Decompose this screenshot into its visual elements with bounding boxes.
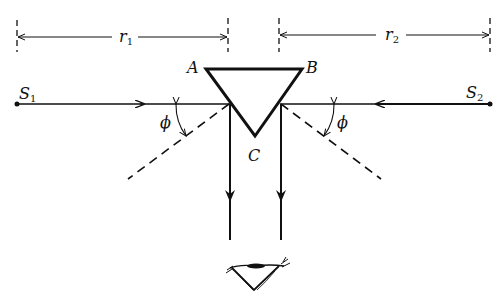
eye-icon bbox=[226, 257, 290, 290]
dimension-r2: r2 bbox=[279, 18, 490, 52]
right-normal-dashed bbox=[281, 104, 381, 179]
source-s2-label: S2 bbox=[466, 83, 483, 103]
prism-triangle bbox=[206, 69, 302, 136]
r2-label: r2 bbox=[385, 25, 399, 45]
right-phi-label: ϕ bbox=[337, 113, 348, 132]
left-angle-arc bbox=[176, 104, 186, 136]
vertex-a-label: A bbox=[185, 58, 199, 77]
left-angle-phi: ϕ bbox=[160, 104, 186, 136]
prism: A B C bbox=[185, 58, 318, 165]
vertex-c-label: C bbox=[248, 146, 260, 165]
dimension-r1: r1 bbox=[17, 18, 228, 52]
reflected-ray-right bbox=[276, 104, 286, 240]
left-normal-dashed bbox=[128, 104, 229, 179]
photometer-diagram: r1 r2 A B C S1 S2 ϕ ϕ bbox=[0, 0, 502, 304]
left-phi-label: ϕ bbox=[160, 113, 171, 132]
right-angle-phi: ϕ bbox=[324, 104, 348, 136]
source-s1-label: S1 bbox=[19, 84, 36, 104]
reflected-ray-left bbox=[225, 104, 235, 240]
r1-label: r1 bbox=[119, 27, 133, 47]
vertex-b-label: B bbox=[305, 58, 318, 77]
source-s1-ray: S1 bbox=[15, 84, 231, 107]
right-angle-arc bbox=[324, 104, 334, 136]
source-s2-ray: S2 bbox=[280, 83, 493, 107]
